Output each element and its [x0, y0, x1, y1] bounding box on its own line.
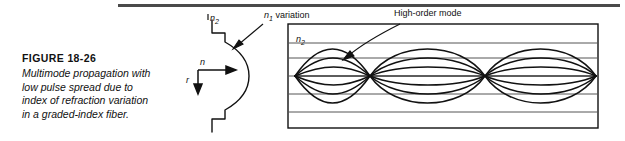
mode-ray-paths: [295, 49, 596, 103]
n1-variation-pointer-arrow: [233, 24, 263, 49]
label-n2-box-sub: 2: [301, 39, 305, 46]
label-axis-n-text: n: [200, 57, 205, 67]
label-cladding-index-box: n2: [296, 34, 305, 46]
label-cladding-index-profile: n2: [210, 13, 219, 25]
label-n1-variation: n1 variation: [264, 10, 309, 22]
figure-container: FIGURE 18-26 Multimode propagation with …: [0, 0, 625, 141]
index-profile-curve: [212, 20, 249, 132]
label-axis-r-text: r: [186, 75, 189, 85]
label-n1-rest: variation: [273, 10, 310, 20]
label-axis-index: n: [200, 57, 205, 67]
label-axis-radius: r: [186, 75, 189, 85]
figure-drawing: [0, 0, 625, 141]
high-order-mode-pointer-arrow: [343, 24, 400, 60]
label-high-order-mode: High-order mode: [394, 8, 462, 18]
label-n2-profile-sub: 2: [215, 18, 219, 25]
axis-arrows: [194, 66, 236, 94]
